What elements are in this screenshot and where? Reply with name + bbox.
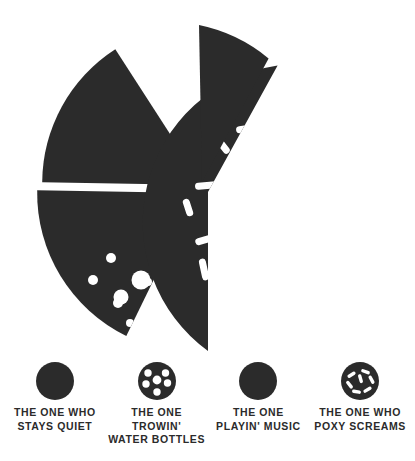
- pattern-sprinkle: [267, 161, 284, 185]
- pattern-sprinkle: [306, 268, 323, 291]
- pattern-dot: [132, 271, 151, 290]
- pattern-sprinkle: [340, 180, 353, 203]
- pattern-dot: [106, 253, 116, 263]
- pie-slice-path: [199, 25, 269, 182]
- pattern-dot: [126, 319, 134, 327]
- pattern-sprinkle: [258, 188, 281, 198]
- legend-label: THE ONE WHO POXY SCREAMS: [314, 406, 406, 433]
- pattern-dot: [88, 275, 98, 285]
- pattern-sprinkle: [259, 308, 282, 323]
- legend-label: THE ONE TROWIN' WATER BOTTLES: [106, 406, 208, 447]
- pattern-sprinkle: [305, 178, 329, 195]
- pattern-sprinkle: [302, 217, 327, 227]
- dotted-circle-swatch-icon: [136, 360, 178, 402]
- pattern-dot: [113, 298, 123, 308]
- pattern-dot: [183, 339, 191, 347]
- legend-item-stays-quiet[interactable]: THE ONE WHO STAYS QUIET: [4, 360, 106, 433]
- pattern-sprinkle: [229, 200, 252, 214]
- legend-label: THE ONE WHO STAYS QUIET: [14, 406, 96, 433]
- pie-chart-svg: [0, 0, 415, 360]
- pattern-sprinkle: [262, 212, 285, 221]
- pattern-dot: [141, 316, 155, 330]
- pattern-sprinkle: [240, 260, 258, 282]
- pattern-sprinkle: [275, 272, 297, 291]
- pattern-dot: [147, 301, 155, 309]
- pattern-sprinkle: [218, 297, 241, 308]
- pattern-sprinkle: [284, 234, 302, 256]
- legend-item-playin-music[interactable]: THE ONE PLAYIN' MUSIC: [208, 360, 310, 433]
- pattern-sprinkle: [311, 241, 328, 264]
- pie-slice-playin-music: [199, 25, 269, 182]
- sprinkled-circle-swatch-icon: [339, 360, 381, 402]
- chart-legend: THE ONE WHO STAYS QUIET THE ONE TROWIN' …: [0, 360, 415, 461]
- pie-chart: [0, 0, 415, 360]
- legend-item-water-bottles[interactable]: THE ONE TROWIN' WATER BOTTLES: [106, 360, 208, 447]
- plain-circle-swatch-icon: [237, 360, 279, 402]
- pie-slice-poxy-screams: [143, 65, 353, 351]
- legend-label: THE ONE PLAYIN' MUSIC: [216, 406, 301, 433]
- legend-item-poxy-screams[interactable]: THE ONE WHO POXY SCREAMS: [309, 360, 411, 433]
- plain-circle-swatch-icon: [34, 360, 76, 402]
- pattern-sprinkle: [314, 124, 329, 147]
